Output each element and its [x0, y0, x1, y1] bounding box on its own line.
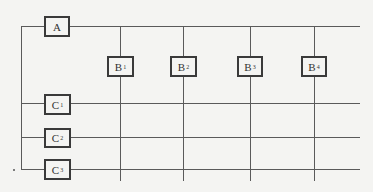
node-b3: B3 — [237, 56, 263, 77]
node-c1-subscript: 1 — [60, 102, 63, 108]
left-trunk-line — [21, 26, 22, 170]
node-b3-label: B — [244, 61, 251, 73]
node-c1: C1 — [44, 94, 71, 115]
row-line-c3 — [21, 169, 360, 170]
node-b1-label: B — [115, 61, 122, 73]
node-b2-subscript: 2 — [186, 64, 189, 70]
node-b4: B4 — [301, 56, 327, 77]
node-b2-label: B — [178, 61, 185, 73]
node-b1-subscript: 1 — [123, 64, 126, 70]
top-bus-line — [21, 26, 360, 27]
node-c3: C3 — [44, 159, 71, 180]
row-line-c1 — [21, 103, 360, 104]
node-b4-label: B — [308, 61, 315, 73]
stray-dot-mark — [13, 169, 15, 171]
node-b4-subscript: 4 — [317, 64, 320, 70]
row-line-c2 — [21, 137, 360, 138]
node-c2: C2 — [44, 128, 71, 148]
node-b3-subscript: 3 — [253, 64, 256, 70]
network-diagram: A B1 B2 B3 B4 C1 C2 C3 — [0, 0, 373, 192]
node-c2-label: C — [52, 132, 59, 144]
node-a: A — [44, 16, 70, 37]
node-b1: B1 — [107, 56, 134, 77]
node-b2: B2 — [170, 56, 197, 77]
node-c1-label: C — [52, 99, 59, 111]
node-a-label: A — [53, 21, 61, 33]
node-c3-label: C — [52, 164, 59, 176]
node-c3-subscript: 3 — [60, 167, 63, 173]
node-c2-subscript: 2 — [60, 135, 63, 141]
